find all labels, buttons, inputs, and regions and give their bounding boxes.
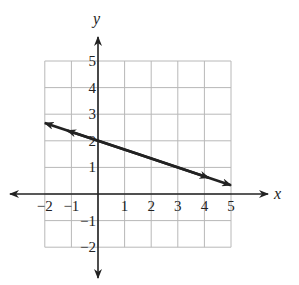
y-tick-label: −1: [80, 213, 96, 229]
arrowhead-right-inner: [138, 154, 209, 178]
y-tick-label: 3: [89, 106, 97, 122]
y-tick-label: 5: [89, 53, 97, 69]
data-line: [45, 123, 231, 185]
x-tick-label: 5: [227, 198, 235, 214]
y-tick-label: −2: [80, 239, 96, 255]
y-tick-label: 1: [89, 159, 97, 175]
x-tick-label: 4: [201, 198, 209, 214]
arrowhead-left-inner: [67, 130, 138, 154]
x-tick-label: 3: [174, 198, 182, 214]
x-axis-label: x: [273, 185, 281, 202]
coordinate-plane: −2−11234554321−1−2 x y: [0, 0, 299, 285]
axes: [10, 37, 268, 278]
x-tick-label: 2: [147, 198, 155, 214]
y-tick-label: 4: [89, 80, 97, 96]
y-axis-label: y: [91, 10, 101, 28]
x-tick-label: 1: [121, 198, 129, 214]
x-tick-label: −1: [63, 198, 79, 214]
x-tick-label: −2: [37, 198, 53, 214]
